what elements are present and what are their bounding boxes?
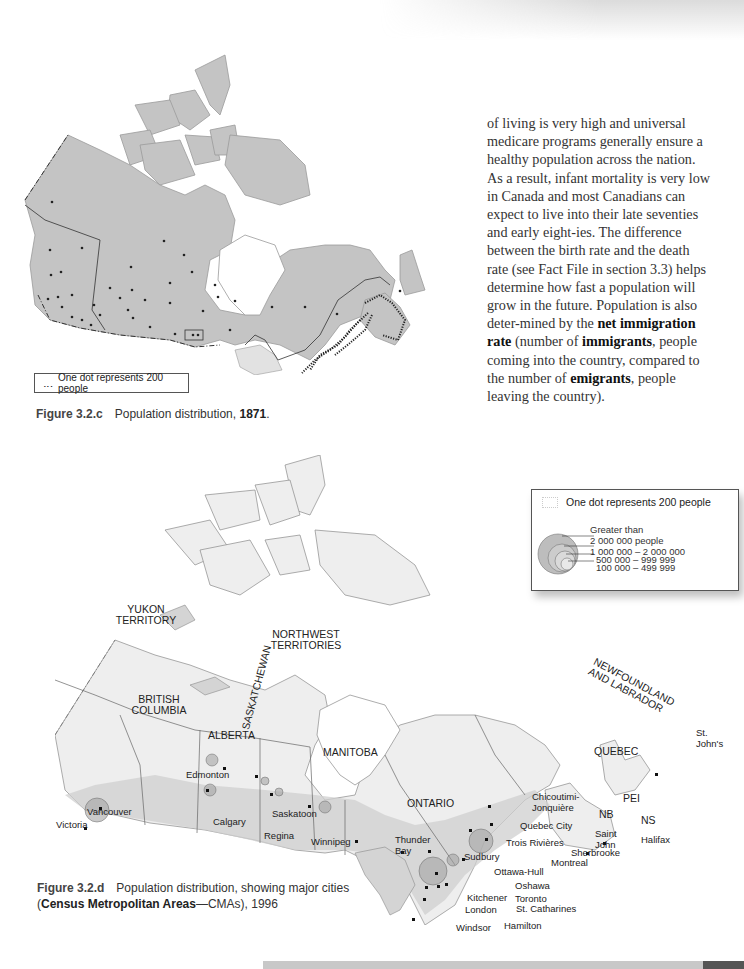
region-label-pei: PEI [623,793,640,804]
city-label: Trois Rivières [506,837,564,848]
legend-size-greater: Greater than 2 000 000 people [590,524,663,546]
legend-dot-row: One dot represents 200 people [542,496,711,508]
city-label: Kitchener [467,892,507,903]
legend-1996: One dot represents 200 people Greater th… [531,489,739,591]
body-paragraph: of living is very high and universal med… [487,114,712,405]
figure-number: Figure 3.2.c [36,407,103,421]
figure-caption-3-2-c: Figure 3.2.cPopulation distribution, 187… [36,406,270,422]
text-segment: of living is very high and universal med… [487,115,710,331]
city-label: Halifax [641,834,670,845]
caption-period: . [266,407,269,421]
city-label: Vancouver [87,806,132,817]
region-label-bc: BRITISH COLUMBIA [121,694,197,716]
figure-title-rest: —CMAs), 1996 [196,897,278,911]
figure-title: Population distribution, [115,407,240,421]
dot-symbol-icon: ․‥ [43,377,52,390]
city-label: Calgary [213,816,246,827]
figure-number: Figure 3.2.d [37,881,104,895]
region-label-quebec: QUEBEC [594,746,638,757]
cma-size-circles-icon [536,530,596,578]
page-footer-tab [703,961,744,969]
city-label: Saskatoon [272,808,317,819]
city-label: Oshawa [515,880,550,891]
key-term-emigrants: emigrants [570,370,631,386]
figure-year: 1871 [239,407,266,421]
region-label-ontario: ONTARIO [407,798,454,809]
page-scan-shadow [380,0,744,40]
text-segment: (number of [511,333,582,349]
city-label: Hamilton [504,920,542,931]
city-label: Montreal [551,857,588,868]
dot-sample-icon [542,497,558,508]
key-term-immigrants: immigrants [582,333,652,349]
legend-1871: ․‥ One dot represents 200 people [34,373,189,393]
region-label-ns: NS [641,815,656,826]
city-label: Regina [264,830,294,841]
city-label: Thunder Bay [395,834,435,856]
city-label: Chicoutimi-Jonquière [532,791,582,813]
page-footer-bar [263,961,703,969]
city-label: Edmonton [186,769,229,780]
figure-caption-3-2-d: Figure 3.2.dPopulation distribution, sho… [37,880,357,912]
city-label: London [465,904,497,915]
city-label: St. Catharines [516,903,576,914]
city-label: Sudbury [464,851,499,862]
city-label: Quebec City [520,820,572,831]
region-label-manitoba: MANITOBA [323,747,378,758]
city-label: Winnipeg [311,836,351,847]
region-label-yukon: YUKON TERRITORY [111,604,181,626]
city-label: Ottawa-Hull [494,866,544,877]
region-label-nb: NB [599,809,614,820]
city-label: Saint John [595,828,625,850]
key-term-cma: Census Metropolitan Areas [41,897,196,911]
city-label: Victoria [56,819,88,830]
legend-size-100k-500k: 100 000 – 499 999 [596,562,675,573]
city-label: Windsor [456,922,491,933]
region-label-alberta: ALBERTA [208,730,255,741]
legend-dot-text: One dot represents 200 people [566,496,711,508]
legend-text: One dot represents 200 people [58,372,188,394]
map-1871 [20,45,460,375]
figure-title: Population distribution, showing major c… [116,881,349,895]
city-label: St. John's [696,727,736,749]
